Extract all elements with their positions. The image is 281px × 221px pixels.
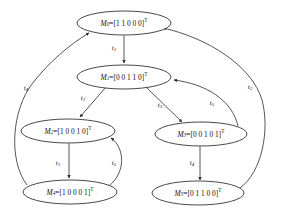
- edge-t4-m4-m0: [15, 33, 89, 185]
- node-m1[interactable]: M1=[0 0 1 1 0]T: [77, 65, 171, 89]
- edge-t3-m1-m3: [146, 87, 182, 122]
- edge-label-t3-left: t3: [56, 159, 61, 167]
- edge-label-t1: t1: [112, 44, 116, 52]
- edge-label-t4-left: t4: [24, 84, 29, 92]
- node-m5[interactable]: M5=[0 1 1 0 0]T: [152, 181, 244, 205]
- edge-label-t2-left: t2: [81, 94, 86, 102]
- edge-t2-m5-m0: [163, 28, 265, 188]
- node-m3[interactable]: M3=[0 0 1 0 1]T: [155, 122, 247, 146]
- edge-label-t5-left: t5: [112, 159, 117, 167]
- node-m2[interactable]: M2=[1 0 0 1 0]T: [21, 119, 115, 143]
- edge-t5-m3-m1: [174, 80, 238, 126]
- reachability-graph: M0=[1 1 0 0 0]T M1=[0 0 1 1 0]T M2=[1 0 …: [0, 0, 281, 221]
- node-m4[interactable]: M4=[1 0 0 0 1]T: [23, 180, 117, 204]
- edge-label-t4-right: t4: [190, 159, 195, 167]
- edge-label-t2-right: t2: [248, 83, 253, 91]
- node-m0[interactable]: M0=[1 1 0 0 0]T: [77, 11, 171, 35]
- edge-t2-m1-m2: [80, 87, 106, 117]
- edge-label-t5-right: t5: [210, 99, 215, 107]
- edge-label-t3-right: t3: [158, 101, 163, 109]
- graph-canvas: M0=[1 1 0 0 0]T M1=[0 0 1 1 0]T M2=[1 0 …: [0, 0, 281, 221]
